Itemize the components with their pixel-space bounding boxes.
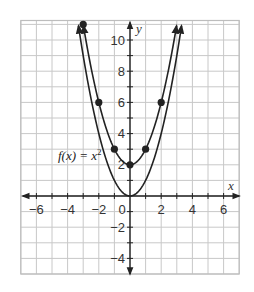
y-tick-label: 4 <box>118 126 125 141</box>
graph-figure: −6−4−20246−4−2246810 x y f(x) = x2 <box>0 0 254 292</box>
x-tick-label: −2 <box>91 202 106 217</box>
coordinate-plane: −6−4−20246−4−2246810 x y f(x) = x2 <box>0 0 254 292</box>
y-axis-label: y <box>134 21 142 36</box>
data-point <box>111 146 118 153</box>
y-tick-label: 6 <box>118 95 125 110</box>
data-point <box>126 161 133 168</box>
x-tick-label: 2 <box>158 202 165 217</box>
axes <box>23 23 239 275</box>
data-point <box>158 99 165 106</box>
function-label: f(x) = x2 <box>58 147 102 163</box>
data-point <box>80 21 87 28</box>
y-tick-label: 8 <box>118 64 125 79</box>
data-point <box>95 99 102 106</box>
y-tick-label: −2 <box>110 220 125 235</box>
y-tick-label: −4 <box>110 251 125 266</box>
x-tick-label: −4 <box>60 202 75 217</box>
x-tick-label: 4 <box>189 202 196 217</box>
function-label-exponent: 2 <box>97 147 102 157</box>
y-tick-label: 10 <box>111 33 125 48</box>
data-point <box>142 146 149 153</box>
x-tick-label: −6 <box>29 202 44 217</box>
function-label-text: f(x) = x <box>58 148 97 163</box>
x-axis-label: x <box>227 178 234 193</box>
x-tick-label: 6 <box>220 202 227 217</box>
x-tick-label: 0 <box>118 202 125 217</box>
